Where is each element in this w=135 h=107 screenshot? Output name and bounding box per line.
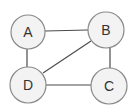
edge-a-b: [45, 30, 88, 31]
node-a: A: [11, 15, 45, 49]
edge-b-d: [43, 41, 91, 73]
node-b-label: B: [101, 22, 110, 38]
node-c: C: [91, 68, 127, 104]
node-a-label: A: [23, 24, 33, 40]
graph-diagram: A B C D: [0, 0, 135, 107]
node-d-label: D: [23, 77, 33, 93]
node-d: D: [10, 67, 46, 103]
node-b: B: [88, 12, 124, 48]
node-c-label: C: [104, 78, 114, 94]
